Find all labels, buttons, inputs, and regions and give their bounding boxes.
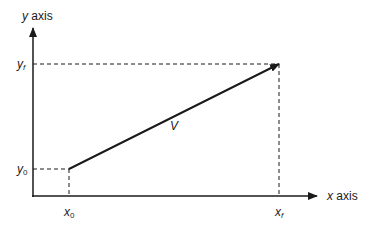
y-axis-label: y axis	[21, 9, 53, 23]
x0-label: x0	[63, 205, 75, 220]
yf-label: yf	[16, 57, 26, 72]
xf-label: xf	[274, 205, 284, 220]
vector-diagram: y axis x axis yf y0 x0 xf V	[0, 0, 370, 230]
vector-v-arrow	[69, 64, 279, 169]
x-axis-label: x axis	[326, 189, 358, 203]
vector-v-label: V	[170, 119, 179, 133]
y0-label: y0	[16, 162, 28, 177]
